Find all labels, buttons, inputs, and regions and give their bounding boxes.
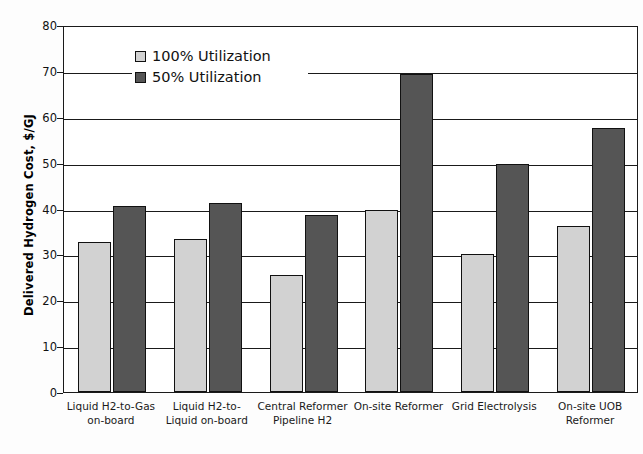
bar bbox=[496, 164, 529, 392]
bar bbox=[113, 206, 146, 392]
x-axis-tick-label-line: Pipeline H2 bbox=[249, 413, 357, 427]
x-axis-tick-label: Grid Electrolysis bbox=[440, 399, 548, 413]
x-axis-tick-label-line: Central Reformer bbox=[249, 399, 357, 413]
y-axis-tick-label: 10 bbox=[14, 340, 57, 354]
x-axis-tick-label-line: Grid Electrolysis bbox=[440, 399, 548, 413]
legend-swatch-100-icon bbox=[135, 51, 146, 62]
legend: 100% Utilization 50% Utilization bbox=[135, 48, 271, 90]
x-axis-tick-label-line: Liquid H2-to- bbox=[153, 399, 261, 413]
legend-label-50: 50% Utilization bbox=[152, 69, 262, 85]
x-axis-tick-label: Liquid H2-to-Gason-board bbox=[57, 399, 165, 427]
y-axis-tick-mark bbox=[57, 393, 63, 394]
x-axis-tick-label-line: On-site UOB bbox=[536, 399, 643, 413]
bar-chart: 01020304050607080 Delivered Hydrogen Cos… bbox=[0, 0, 643, 454]
x-axis-tick-label: Liquid H2-to-Liquid on-board bbox=[153, 399, 261, 427]
y-axis-tick-label: 80 bbox=[14, 19, 57, 33]
y-axis-tick-label: 70 bbox=[14, 65, 57, 79]
bar bbox=[305, 215, 338, 392]
x-axis-tick-label-line: Liquid on-board bbox=[153, 413, 261, 427]
bar bbox=[592, 128, 625, 392]
legend-item-100: 100% Utilization bbox=[135, 48, 271, 64]
bar bbox=[174, 239, 207, 392]
bar bbox=[400, 74, 433, 392]
bar bbox=[365, 210, 398, 392]
bar-group bbox=[447, 27, 543, 392]
x-axis-tick-label-line: Reformer bbox=[536, 413, 643, 427]
bar-group bbox=[352, 27, 448, 392]
bar bbox=[209, 203, 242, 392]
x-axis-tick-label-line: on-board bbox=[57, 413, 165, 427]
y-axis-title: Delivered Hydrogen Cost, $/GJ bbox=[22, 100, 36, 330]
legend-swatch-50-icon bbox=[135, 72, 146, 83]
x-axis-tick-label-line: On-site Reformer bbox=[345, 399, 453, 413]
legend-item-50: 50% Utilization bbox=[135, 69, 271, 85]
bar bbox=[270, 275, 303, 392]
bar-group bbox=[543, 27, 639, 392]
x-axis-tick-label: Central ReformerPipeline H2 bbox=[249, 399, 357, 427]
x-axis-tick-label-line: Liquid H2-to-Gas bbox=[57, 399, 165, 413]
y-axis-tick-label: 0 bbox=[14, 386, 57, 400]
x-axis-tick-label: On-site Reformer bbox=[345, 399, 453, 413]
bar bbox=[78, 242, 111, 392]
bar bbox=[557, 226, 590, 392]
x-axis-tick-label: On-site UOBReformer bbox=[536, 399, 643, 427]
bar bbox=[461, 254, 494, 392]
legend-label-100: 100% Utilization bbox=[152, 48, 271, 64]
